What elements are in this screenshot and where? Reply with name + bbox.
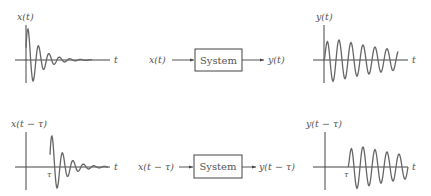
plot-y-of-t: y(t) t [313, 11, 416, 83]
ylabel: y(t − τ) [305, 118, 342, 129]
shifted-response-waveform [348, 147, 408, 188]
ylabel: x(t) [17, 11, 34, 22]
response-waveform [324, 40, 398, 81]
system-block-top: x(t) System y(t) [149, 49, 285, 71]
plot-y-shifted: y(t − τ) t τ [305, 118, 416, 190]
system-label: System [200, 55, 238, 66]
plot-x-shifted: x(t − τ) t τ [11, 118, 118, 190]
block-output-label: y(t − τ) [258, 161, 295, 172]
shifted-decaying-waveform [50, 136, 108, 188]
decaying-waveform [26, 29, 92, 81]
tau-tick: τ [344, 170, 349, 179]
plot-x-of-t: x(t) t [15, 11, 118, 83]
xlabel: t [412, 161, 416, 172]
xlabel: t [114, 54, 118, 65]
system-label: System [199, 161, 237, 172]
system-block-bottom: x(t − τ) System y(t − τ) [138, 155, 295, 178]
block-input-label: x(t) [149, 54, 166, 65]
time-invariance-diagram: x(t) t x(t) System y(t) y(t) t x(t − τ) … [0, 0, 431, 196]
xlabel: t [412, 54, 416, 65]
xlabel: t [114, 161, 118, 172]
block-input-label: x(t − τ) [138, 161, 174, 172]
ylabel: x(t − τ) [11, 118, 47, 129]
tau-tick: τ [47, 170, 52, 179]
ylabel: y(t) [315, 11, 333, 22]
block-output-label: y(t) [267, 54, 285, 65]
